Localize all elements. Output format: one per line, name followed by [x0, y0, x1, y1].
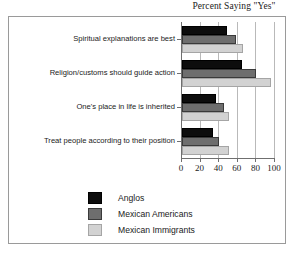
bar	[182, 78, 271, 87]
legend-swatch	[88, 224, 102, 236]
bar	[182, 35, 236, 44]
chart-title: Percent Saying "Yes"	[176, 1, 292, 11]
bar	[182, 69, 256, 78]
bar	[182, 137, 219, 146]
x-axis-tick	[255, 158, 256, 162]
chart-figure: Percent Saying "Yes" 020406080100 Anglos…	[0, 0, 294, 260]
bar	[182, 94, 216, 103]
gridline	[255, 22, 256, 158]
category-tick	[177, 141, 181, 142]
plot-area: 020406080100	[181, 22, 274, 158]
x-axis-line	[181, 158, 274, 159]
category-tick	[177, 39, 181, 40]
x-axis-tick	[237, 158, 238, 162]
chart-legend: AnglosMexican AmericansMexican Immigrant…	[88, 190, 248, 238]
bar	[182, 44, 243, 53]
legend-item: Mexican Immigrants	[88, 222, 248, 238]
bar	[182, 26, 227, 35]
category-label: Religion/customs should guide action	[50, 68, 175, 77]
x-axis-tick	[274, 158, 275, 162]
bar	[182, 146, 229, 155]
bar	[182, 112, 229, 121]
x-axis-tick-label: 20	[195, 163, 204, 173]
gridline	[237, 22, 238, 158]
x-axis-tick	[181, 158, 182, 162]
x-axis-tick-label: 80	[251, 163, 260, 173]
gridline	[274, 22, 275, 158]
legend-item: Anglos	[88, 190, 248, 206]
bar	[182, 103, 224, 112]
x-axis-tick-label: 100	[267, 163, 281, 173]
legend-label: Anglos	[118, 193, 144, 203]
legend-label: Mexican Americans	[118, 209, 193, 219]
category-tick	[177, 73, 181, 74]
bar	[182, 128, 213, 137]
bar	[182, 60, 242, 69]
legend-item: Mexican Americans	[88, 206, 248, 222]
x-axis-tick-label: 0	[179, 163, 184, 173]
x-axis-tick-label: 40	[214, 163, 223, 173]
x-axis-tick	[218, 158, 219, 162]
category-label: Spiritual explanations are best	[73, 34, 175, 43]
x-axis-tick-label: 60	[232, 163, 241, 173]
legend-label: Mexican Immigrants	[118, 225, 195, 235]
x-axis-tick	[200, 158, 201, 162]
category-label: One's place in life is inherited	[76, 102, 175, 111]
legend-swatch	[88, 192, 102, 204]
category-label: Treat people according to their position	[44, 136, 175, 145]
legend-swatch	[88, 208, 102, 220]
category-tick	[177, 107, 181, 108]
